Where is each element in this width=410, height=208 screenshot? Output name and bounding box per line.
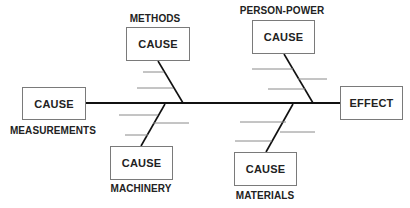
machinery-cause-box: CAUSE	[110, 146, 173, 180]
measurements-cause-box: CAUSE	[22, 87, 86, 120]
materials-cause-box: CAUSE	[234, 152, 297, 186]
methods-cause-box: CAUSE	[126, 27, 190, 61]
materials-bone	[266, 104, 293, 152]
methods-bone	[158, 61, 183, 103]
person-power-cause-box: CAUSE	[252, 20, 315, 54]
effect-box: EFFECT	[340, 86, 403, 120]
measurements-label: MEASUREMENTS	[10, 125, 96, 136]
person-power-label: PERSON-POWER	[240, 5, 325, 16]
machinery-label: MACHINERY	[110, 183, 171, 194]
machinery-bone	[141, 104, 165, 146]
materials-label: MATERIALS	[236, 190, 295, 201]
methods-label: METHODS	[130, 13, 181, 24]
